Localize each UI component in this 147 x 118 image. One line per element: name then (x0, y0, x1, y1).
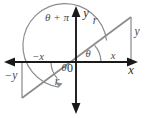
label-radius-q3: r (55, 75, 60, 87)
label-leg-x-negative: −x (32, 51, 44, 62)
label-y-axis: y (81, 6, 89, 20)
label-leg-y-negative: −y (5, 69, 19, 82)
y-axis-negative-arrowhead (72, 103, 81, 114)
label-origin: 0 (67, 61, 73, 75)
label-radius-q1: r (93, 14, 98, 26)
label-angle-theta-q1: θ (85, 48, 90, 59)
label-leg-y-positive: y (133, 25, 140, 38)
angle-diagram-container: r r θ θ θ + π y x −y −x 0 x y (0, 0, 147, 118)
angle-arc-theta-q1 (95, 45, 101, 62)
y-axis-positive-arrowhead (72, 6, 81, 17)
label-x-axis: x (127, 63, 134, 77)
label-leg-x-positive: x (110, 50, 116, 61)
label-angle-theta-q3: θ (61, 62, 66, 73)
label-angle-theta-plus-pi: θ + π (45, 11, 69, 23)
coordinate-plane-diagram: r r θ θ θ + π y x −y −x 0 x y (0, 0, 147, 118)
x-axis-negative-arrowhead (4, 58, 15, 67)
